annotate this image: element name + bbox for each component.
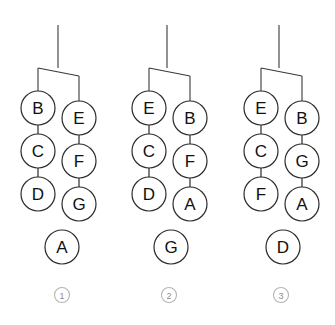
node-label: F: [74, 152, 84, 171]
node[interactable]: F: [62, 144, 96, 178]
node[interactable]: C: [244, 134, 278, 168]
node-label: C: [143, 142, 155, 161]
mobile-diagram-canvas: BCDEFGA1ECDBFAG2ECFBGAD3: [0, 0, 335, 325]
index-label: 1: [59, 291, 64, 301]
right-chain: EFG: [62, 101, 96, 221]
node[interactable]: C: [132, 134, 166, 168]
node-label: D: [143, 185, 155, 204]
node[interactable]: G: [62, 187, 96, 221]
node-label: E: [255, 99, 266, 118]
node[interactable]: G: [285, 144, 319, 178]
node-label: F: [256, 185, 266, 204]
node[interactable]: A: [173, 187, 207, 221]
node[interactable]: B: [21, 91, 55, 125]
node[interactable]: A: [285, 187, 319, 221]
diagram-3: ECFBGAD3: [244, 25, 319, 303]
node[interactable]: B: [285, 101, 319, 135]
connector-crossbar: [261, 68, 302, 76]
isolated-node[interactable]: D: [266, 230, 300, 264]
node[interactable]: F: [173, 144, 207, 178]
node-label: E: [73, 109, 84, 128]
node-label: B: [32, 99, 43, 118]
node-label: A: [296, 195, 308, 214]
isolated-node-label: D: [277, 238, 289, 257]
diagram-index-badge: 2: [162, 288, 177, 303]
diagram-1: BCDEFGA1: [21, 25, 96, 303]
left-chain: BCD: [21, 91, 55, 211]
node-label: B: [296, 109, 307, 128]
isolated-node[interactable]: A: [45, 230, 79, 264]
node-label: F: [185, 152, 195, 171]
node-label: G: [72, 195, 85, 214]
node-label: C: [255, 142, 267, 161]
isolated-node-label: G: [164, 238, 177, 257]
figure-root: BCDEFGA1ECDBFAG2ECFBGAD3: [0, 0, 335, 325]
node[interactable]: E: [244, 91, 278, 125]
node[interactable]: E: [62, 101, 96, 135]
diagram-index-badge: 1: [55, 288, 70, 303]
diagram-index-badge: 3: [274, 288, 289, 303]
index-label: 3: [278, 291, 283, 301]
node[interactable]: C: [21, 134, 55, 168]
index-label: 2: [166, 291, 171, 301]
node[interactable]: D: [132, 177, 166, 211]
isolated-node-label: A: [56, 238, 68, 257]
connector-crossbar: [38, 68, 79, 76]
node-label: G: [295, 152, 308, 171]
node[interactable]: E: [132, 91, 166, 125]
right-chain: BGA: [285, 101, 319, 221]
node-label: D: [32, 185, 44, 204]
node[interactable]: D: [21, 177, 55, 211]
node-label: C: [32, 142, 44, 161]
node-label: E: [143, 99, 154, 118]
node[interactable]: F: [244, 177, 278, 211]
left-chain: ECF: [244, 91, 278, 211]
left-chain: ECD: [132, 91, 166, 211]
right-chain: BFA: [173, 101, 207, 221]
node-label: B: [184, 109, 195, 128]
isolated-node[interactable]: G: [154, 230, 188, 264]
diagram-2: ECDBFAG2: [132, 25, 207, 303]
node[interactable]: B: [173, 101, 207, 135]
node-label: A: [184, 195, 196, 214]
connector-crossbar: [149, 68, 190, 76]
